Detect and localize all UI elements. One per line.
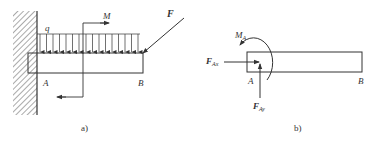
beam-b <box>247 52 362 72</box>
label-MA: MA <box>234 30 247 41</box>
label-M: M <box>102 11 111 21</box>
fixed-wall-support <box>13 11 37 115</box>
moment-MA-arrow <box>240 38 273 80</box>
label-F: F <box>166 8 174 19</box>
label-B-b: B <box>358 76 364 86</box>
figure-b: MA FAx FAy A B b) <box>205 30 364 133</box>
label-FAx: FAx <box>205 56 219 67</box>
caption-a: a) <box>81 123 88 133</box>
beam-a <box>28 53 143 73</box>
figure-a: q M F A B a) <box>13 8 184 133</box>
force-F-arrow <box>143 18 184 53</box>
label-B-a: B <box>138 78 144 88</box>
label-A-a: A <box>42 78 49 88</box>
caption-b: b) <box>294 123 302 133</box>
label-FAy: FAy <box>252 101 265 112</box>
distributed-load-q <box>37 34 140 52</box>
statics-diagram: q M F A B a) MA FAx FAy <box>0 0 371 144</box>
label-A-b: A <box>247 76 254 86</box>
label-q: q <box>45 23 50 33</box>
